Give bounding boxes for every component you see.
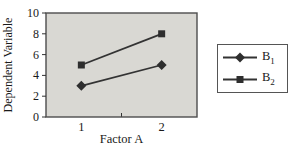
y-tick-label: 2	[33, 89, 39, 103]
y-tick-label: 4	[33, 68, 39, 82]
plot-background	[46, 13, 197, 117]
y-tick-label: 10	[27, 6, 39, 20]
legend-label-b2: B2	[262, 71, 275, 88]
legend-label-b1-sub: 1	[270, 55, 275, 65]
square-marker	[237, 76, 244, 83]
legend: B1 B2	[217, 44, 288, 93]
y-tick-label: 6	[33, 48, 39, 62]
legend-label-b1: B1	[262, 50, 275, 67]
square-marker	[158, 30, 165, 37]
y-tick-label: 0	[33, 110, 39, 124]
diamond-marker	[235, 53, 245, 63]
legend-line-square-icon	[223, 73, 257, 86]
y-tick-label: 8	[33, 27, 39, 41]
square-marker	[78, 62, 85, 69]
legend-line-diamond-icon	[223, 51, 257, 64]
legend-label-b2-sub: 2	[270, 76, 275, 86]
x-axis-title: Factor A	[46, 132, 197, 148]
interaction-line-chart: Dependent Variable 024681012 Factor A B1…	[0, 0, 295, 149]
legend-item-b1: B1	[223, 50, 283, 67]
legend-item-b2: B2	[223, 71, 283, 88]
